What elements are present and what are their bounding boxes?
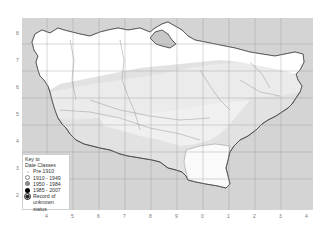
x-tick-label: 9: [175, 213, 178, 219]
x-tick-label: 7: [123, 213, 126, 219]
dotted-circle-icon: [25, 194, 30, 199]
open-circle-icon: [25, 175, 30, 180]
x-tick-label: 4: [45, 213, 48, 219]
x-tick-label: 0: [201, 213, 204, 219]
legend: Key to Date Classes Pre 1910 1910 - 1949…: [22, 154, 70, 210]
x-tick-label: 6: [97, 213, 100, 219]
x-tick-label: 5: [71, 213, 74, 219]
y-tick-label: 2: [16, 192, 19, 198]
grey-circle-icon: [25, 181, 30, 186]
y-tick-label: 6: [16, 84, 19, 90]
y-tick-label: 4: [16, 138, 19, 144]
x-tick-label: 8: [149, 213, 152, 219]
tiny-dot-icon: [27, 171, 29, 173]
y-tick-label: 7: [16, 57, 19, 63]
black-circle-icon: [25, 188, 30, 193]
x-tick-label: 1: [227, 213, 230, 219]
x-tick-label: 2: [253, 213, 256, 219]
y-tick-label: 3: [16, 165, 19, 171]
x-tick-label: 3: [279, 213, 282, 219]
x-tick-label: 4: [305, 213, 308, 219]
legend-label-continued: unknown status: [25, 199, 67, 211]
y-tick-label: 5: [16, 111, 19, 117]
y-tick-label: 8: [16, 30, 19, 36]
